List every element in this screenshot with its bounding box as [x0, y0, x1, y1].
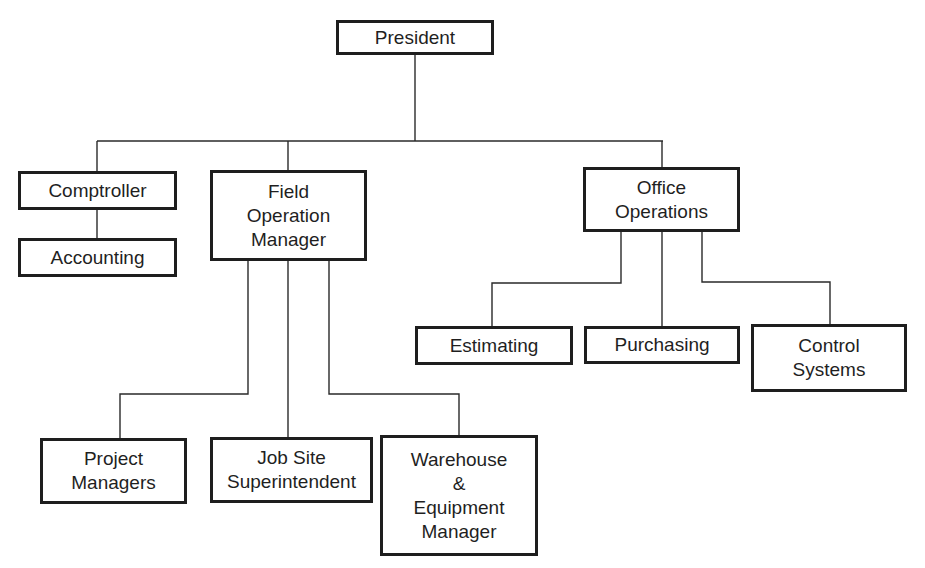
node-label: President [375, 26, 455, 50]
node-label: Accounting [50, 246, 144, 270]
node-estimating: Estimating [415, 326, 573, 365]
node-field-operation-manager: Field Operation Manager [210, 170, 367, 261]
node-accounting: Accounting [18, 238, 177, 277]
node-control-systems: Control Systems [751, 324, 907, 392]
connector-to-control-systems [702, 231, 830, 324]
node-label: Project Managers [71, 447, 156, 495]
node-office-operations: Office Operations [583, 167, 740, 232]
node-label: Control Systems [793, 334, 866, 382]
node-comptroller: Comptroller [18, 171, 177, 210]
node-job-site-superintendent: Job Site Superintendent [210, 437, 373, 503]
connector-to-estimating [492, 231, 621, 326]
node-label: Estimating [450, 334, 539, 358]
node-warehouse-equipment-manager: Warehouse & Equipment Manager [380, 435, 538, 556]
node-label: Field Operation Manager [247, 180, 330, 252]
node-president: President [336, 20, 494, 55]
node-project-managers: Project Managers [40, 438, 187, 504]
node-label: Office Operations [615, 176, 708, 224]
node-purchasing: Purchasing [584, 326, 740, 364]
node-label: Warehouse & Equipment Manager [411, 448, 507, 544]
org-chart: President Comptroller Accounting Field O… [0, 0, 925, 568]
node-label: Comptroller [48, 179, 146, 203]
connector-to-project-managers [120, 260, 248, 438]
node-label: Job Site Superintendent [227, 446, 356, 494]
node-label: Purchasing [614, 333, 709, 357]
